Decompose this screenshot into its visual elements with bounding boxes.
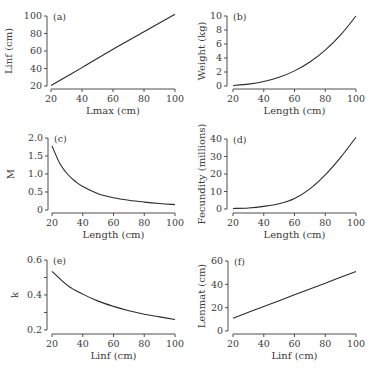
y-tick-label: 0.5 [28, 186, 43, 197]
y-axis-title: Lenmat (cm) [196, 264, 207, 329]
x-tick-label: 20 [45, 93, 57, 104]
y-tick-label: 0.4 [27, 289, 42, 300]
x-tick-label: 40 [258, 217, 270, 228]
x-axis-title: Linf (cm) [90, 350, 136, 361]
x-tick-label: 40 [76, 93, 88, 104]
data-curve [51, 14, 175, 85]
y-tick-label: 8 [216, 24, 222, 35]
y-tick-label: 20 [30, 80, 42, 91]
data-curve [233, 272, 356, 319]
x-tick-label: 40 [77, 217, 89, 228]
panel-label: (a) [53, 11, 66, 22]
y-tick-label: 100 [24, 10, 42, 21]
x-tick-label: 100 [347, 338, 365, 349]
x-axis-title: Length (cm) [264, 229, 326, 240]
y-tick-label: 0 [216, 203, 222, 214]
panel-c: 00.51.01.52.020406080100Length (cm)M(c) [5, 132, 184, 240]
panel-label: (b) [233, 11, 247, 22]
y-axis-title: k [9, 291, 20, 298]
x-tick-label: 40 [258, 338, 270, 349]
x-axis-title: Length (cm) [83, 229, 145, 240]
x-tick-label: 80 [319, 338, 331, 349]
panel-a: 2040608010020406080100Lmax (cm)Linf (cm)… [3, 10, 184, 116]
x-tick-label: 100 [166, 217, 184, 228]
x-tick-label: 60 [288, 217, 300, 228]
panel-label: (e) [53, 255, 66, 266]
y-tick-label: 2 [216, 66, 222, 77]
panel-e: 0.20.40.620406080100Linf (cm)k(e) [9, 254, 184, 361]
x-tick-label: 40 [77, 338, 89, 349]
x-tick-label: 100 [347, 217, 365, 228]
x-tick-label: 60 [107, 338, 119, 349]
y-axis-title: Linf (cm) [3, 28, 14, 74]
x-tick-label: 20 [46, 217, 58, 228]
y-tick-label: 10 [210, 10, 222, 21]
x-axis-title: Lmax (cm) [86, 105, 140, 116]
x-tick-label: 80 [319, 93, 331, 104]
y-tick-label: 40 [210, 133, 222, 144]
x-tick-label: 80 [138, 338, 150, 349]
x-tick-label: 40 [258, 93, 270, 104]
x-tick-label: 60 [288, 93, 300, 104]
y-tick-label: 0 [216, 80, 222, 91]
y-tick-label: 30 [210, 151, 222, 162]
x-tick-label: 20 [227, 338, 239, 349]
panel-label: (f) [234, 256, 245, 267]
x-tick-label: 100 [347, 93, 365, 104]
x-tick-label: 100 [166, 338, 184, 349]
panel-label: (c) [54, 133, 67, 144]
data-curve [233, 16, 356, 85]
y-axis-title: Weight (kg) [196, 21, 207, 80]
panel-d: 01020304020406080100Length (cm)Fecundity… [196, 123, 365, 240]
y-tick-label: 10 [210, 186, 222, 197]
panel-label: (d) [233, 134, 247, 145]
y-tick-label: 0.2 [27, 324, 42, 335]
y-tick-label: 40 [211, 279, 223, 290]
y-axis-title: Fecundity (millions) [196, 123, 207, 224]
x-tick-label: 20 [46, 338, 58, 349]
y-axis-title: M [5, 169, 16, 179]
x-tick-label: 20 [227, 217, 239, 228]
y-tick-label: 80 [30, 28, 42, 39]
y-tick-label: 4 [216, 52, 222, 63]
x-tick-label: 80 [138, 93, 150, 104]
y-tick-label: 60 [211, 255, 223, 266]
x-tick-label: 60 [107, 93, 119, 104]
data-curve [52, 271, 175, 319]
x-tick-label: 20 [227, 93, 239, 104]
y-tick-label: 1.5 [28, 150, 43, 161]
x-tick-label: 60 [107, 217, 119, 228]
x-tick-label: 80 [319, 217, 331, 228]
x-tick-label: 100 [166, 93, 184, 104]
y-tick-label: 6 [216, 38, 222, 49]
y-tick-label: 40 [30, 63, 42, 74]
y-tick-label: 0 [37, 204, 43, 215]
y-tick-label: 20 [211, 302, 223, 313]
y-tick-label: 0 [217, 325, 223, 336]
panel-f: 020406020406080100Linf (cm)Lenmat (cm)(f… [196, 255, 365, 361]
panel-b: 024681020406080100Length (cm)Weight (kg)… [196, 10, 365, 116]
y-tick-label: 1.0 [28, 168, 43, 179]
y-tick-label: 20 [210, 168, 222, 179]
figure: 2040608010020406080100Lmax (cm)Linf (cm)… [0, 0, 378, 375]
x-tick-label: 60 [288, 338, 300, 349]
y-tick-label: 2.0 [28, 132, 43, 143]
x-axis-title: Length (cm) [264, 105, 326, 116]
y-tick-label: 60 [30, 45, 42, 56]
y-tick-label: 0.6 [27, 254, 42, 265]
x-tick-label: 80 [138, 217, 150, 228]
x-axis-title: Linf (cm) [271, 350, 317, 361]
data-curve [52, 146, 175, 205]
data-curve [233, 137, 356, 208]
